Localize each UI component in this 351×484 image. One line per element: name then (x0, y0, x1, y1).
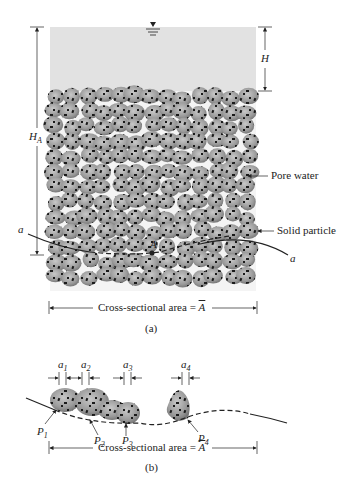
label-A-point: A (150, 238, 157, 250)
label-solid-particle: Solid particle (277, 224, 336, 236)
label-HA: HA (29, 130, 42, 145)
label-a3: a3 (123, 358, 133, 373)
a-dimension-ticks (48, 372, 200, 385)
label-pore-water: Pore water (271, 169, 318, 181)
caption-a: (a) (145, 322, 157, 334)
water-column (50, 27, 256, 91)
cross-section-b: Cross-sectional area = A (98, 441, 205, 453)
cross-section-a: Cross-sectional area = A (98, 301, 205, 313)
label-a-left: a (18, 223, 24, 235)
soil-diagram (0, 0, 351, 484)
point-A (150, 251, 155, 256)
label-a1: a1 (58, 358, 68, 373)
label-a-right: a (290, 252, 296, 264)
label-P1: P1 (37, 425, 48, 440)
label-a2: a2 (81, 358, 91, 373)
particles-b (50, 388, 190, 424)
label-H: H (261, 52, 269, 64)
label-a4: a4 (181, 358, 191, 373)
caption-b: (b) (145, 461, 158, 473)
soil-particles (43, 85, 259, 291)
